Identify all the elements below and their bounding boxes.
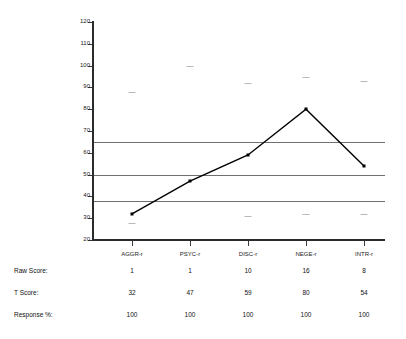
- table-cell: 54: [360, 288, 367, 298]
- table-cell: 16: [302, 266, 309, 276]
- y-tick-label: 90: [83, 82, 90, 91]
- row-label: T Score:: [14, 288, 38, 298]
- table-cell: 100: [127, 310, 138, 320]
- data-point-intr: [363, 164, 366, 167]
- score-table: Raw Score: 1 1 10 16 8 T Score: 32 47 59…: [0, 262, 406, 328]
- x-axis-line: [92, 239, 385, 241]
- y-tick-label: 80: [83, 104, 90, 113]
- x-axis-label-nege: NEGE-r: [296, 250, 317, 259]
- x-axis-label-disc: DISC-r: [239, 250, 257, 259]
- table-cell: 80: [302, 288, 309, 298]
- table-cell: 1: [188, 266, 192, 276]
- psy5-profile-chart: 120 110 100 90 80 70 60 50: [0, 0, 406, 339]
- x-axis-label-aggr: AGGR-r: [121, 250, 143, 259]
- data-point-aggr: [131, 212, 134, 215]
- x-axis-label-intr: INTR-r: [355, 250, 373, 259]
- table-cell: 10: [244, 266, 251, 276]
- table-row-t-score: T Score: 32 47 59 80 54: [0, 284, 406, 306]
- y-tick-label: 110: [80, 39, 90, 48]
- y-tick-label: 20: [83, 235, 90, 244]
- table-cell: 100: [243, 310, 254, 320]
- profile-line: [93, 22, 385, 240]
- table-row-response-pct: Response %: 100 100 100 100 100: [0, 306, 406, 328]
- table-cell: 47: [186, 288, 193, 298]
- table-cell: 8: [362, 266, 366, 276]
- table-row-raw-score: Raw Score: 1 1 10 16 8: [0, 262, 406, 284]
- y-tick-label: 70: [83, 126, 90, 135]
- table-cell: 100: [301, 310, 312, 320]
- table-cell: 59: [244, 288, 251, 298]
- table-cell: 100: [185, 310, 196, 320]
- row-label: Raw Score:: [14, 266, 48, 276]
- data-point-disc: [247, 154, 250, 157]
- y-tick-label: 60: [83, 148, 90, 157]
- data-point-psyc: [189, 180, 192, 183]
- table-cell: 100: [359, 310, 370, 320]
- table-cell: 1: [130, 266, 134, 276]
- y-tick-label: 50: [83, 170, 90, 179]
- y-tick-label: 120: [80, 17, 90, 26]
- row-label: Response %:: [14, 310, 53, 320]
- y-tick-label: 100: [80, 61, 90, 70]
- table-cell: 32: [128, 288, 135, 298]
- y-tick-label: 30: [83, 213, 90, 222]
- data-point-nege: [305, 108, 308, 111]
- x-axis-label-psyc: PSYC-r: [180, 250, 200, 259]
- plot-area: 120 110 100 90 80 70 60 50: [93, 22, 385, 240]
- y-tick-label: 40: [83, 191, 90, 200]
- y-axis-line: [92, 21, 94, 241]
